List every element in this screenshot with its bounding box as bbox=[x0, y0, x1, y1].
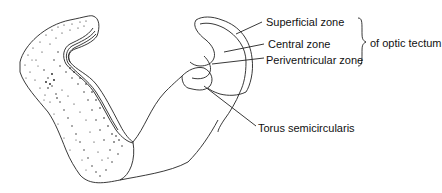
left-hemisphere-section bbox=[20, 16, 134, 183]
label-central-zone: Central zone bbox=[268, 38, 330, 50]
leader-superficial bbox=[236, 22, 262, 34]
leader-torus bbox=[204, 86, 256, 126]
label-periventricular-zone: Periventricular zone bbox=[266, 54, 363, 66]
leader-lines bbox=[204, 22, 264, 126]
leader-periventricular bbox=[212, 58, 264, 64]
stipple-dots bbox=[24, 20, 122, 176]
label-torus-semicircularis: Torus semicircularis bbox=[258, 122, 355, 134]
midline-region bbox=[120, 76, 218, 180]
label-optic-tectum-group: of optic tectum bbox=[370, 37, 442, 49]
label-superficial-zone: Superficial zone bbox=[266, 16, 344, 28]
